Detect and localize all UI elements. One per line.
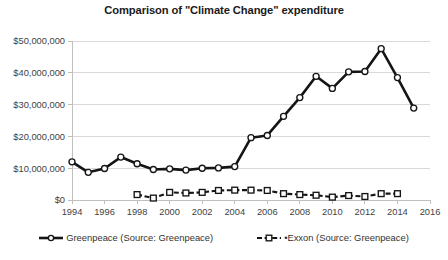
legend-label-exxon: •Exxon (Source: Greenpeace) — [284, 232, 409, 243]
data-point-marker — [248, 187, 254, 193]
data-point-marker — [150, 166, 156, 172]
x-axis-ticks: 1994199619982000200220042006200820102012… — [62, 200, 441, 217]
data-point-marker — [150, 195, 156, 201]
data-point-marker — [346, 193, 352, 199]
y-tick-label: $50,000,000 — [13, 36, 65, 46]
data-point-marker — [167, 166, 173, 172]
legend-item-greenpeace[interactable]: Greenpeace (Source: Greenpeace) — [39, 232, 213, 243]
y-tick-label: $30,000,000 — [13, 100, 65, 110]
x-tick-label: 1998 — [127, 207, 148, 217]
x-tick-label: 2008 — [289, 207, 310, 217]
legend-marker-square-icon — [257, 233, 281, 243]
x-tick-label: 2004 — [224, 207, 245, 217]
data-point-marker — [264, 132, 270, 138]
chart-legend: Greenpeace (Source: Greenpeace) •Exxon (… — [0, 232, 448, 243]
data-point-marker — [329, 85, 335, 91]
data-point-marker — [134, 192, 140, 198]
data-point-marker — [329, 194, 335, 200]
data-point-marker — [281, 191, 287, 197]
data-point-marker — [215, 165, 221, 171]
data-point-marker — [216, 188, 222, 194]
data-point-marker — [85, 169, 91, 175]
x-tick-label: 2014 — [387, 207, 408, 217]
x-tick-label: 1994 — [62, 207, 83, 217]
data-point-marker — [411, 105, 417, 111]
x-tick-label: 1996 — [94, 207, 115, 217]
data-point-marker — [362, 194, 368, 200]
x-tick-label: 2006 — [257, 207, 278, 217]
y-tick-label: $0 — [55, 195, 65, 205]
data-point-marker — [281, 113, 287, 119]
x-tick-label: 2012 — [355, 207, 376, 217]
data-point-marker — [346, 69, 352, 75]
data-point-marker — [248, 135, 254, 141]
data-point-marker — [69, 159, 75, 165]
data-point-marker — [118, 154, 124, 160]
data-point-marker — [313, 192, 319, 198]
data-point-marker — [264, 188, 270, 194]
data-point-marker — [167, 189, 173, 195]
legend-marker-circle-icon — [39, 233, 63, 243]
x-tick-label: 2010 — [322, 207, 343, 217]
data-point-marker — [395, 191, 401, 197]
x-tick-label: 2000 — [159, 207, 180, 217]
data-point-marker — [134, 161, 140, 167]
data-point-marker — [394, 75, 400, 81]
data-point-marker — [232, 164, 238, 170]
data-point-marker — [297, 192, 303, 198]
data-point-marker — [378, 46, 384, 52]
data-point-marker — [378, 191, 384, 197]
chart-container: Comparison of "Climate Change" expenditu… — [0, 0, 448, 260]
x-tick-label: 2002 — [192, 207, 213, 217]
data-point-marker — [232, 187, 238, 193]
legend-label-greenpeace: Greenpeace (Source: Greenpeace) — [66, 232, 213, 243]
data-point-marker — [183, 167, 189, 173]
data-point-marker — [199, 165, 205, 171]
series-line — [72, 49, 414, 173]
data-point-marker — [362, 69, 368, 75]
data-point-marker — [102, 166, 108, 172]
x-tick-label: 2016 — [420, 207, 441, 217]
legend-item-exxon[interactable]: •Exxon (Source: Greenpeace) — [257, 232, 409, 243]
series-greenpeace — [69, 46, 417, 176]
axis-lines — [72, 41, 430, 200]
y-tick-label: $40,000,000 — [13, 68, 65, 78]
data-point-marker — [199, 189, 205, 195]
y-axis-ticks: $0$10,000,000$20,000,000$30,000,000$40,0… — [13, 36, 72, 205]
y-tick-label: $20,000,000 — [13, 132, 65, 142]
gridlines-group — [72, 41, 430, 200]
data-point-marker — [183, 190, 189, 196]
data-point-marker — [297, 95, 303, 101]
data-point-marker — [313, 73, 319, 79]
series-exxon — [134, 187, 400, 201]
chart-plot-area: $0$10,000,000$20,000,000$30,000,000$40,0… — [0, 0, 448, 260]
y-tick-label: $10,000,000 — [13, 164, 65, 174]
